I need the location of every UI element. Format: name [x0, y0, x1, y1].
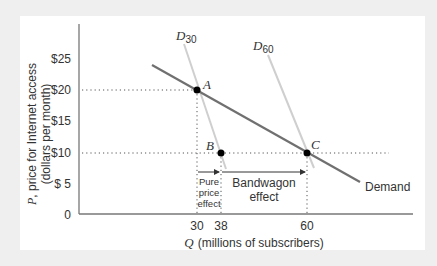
bandwagon-effect-label: Bandwagon effect: [232, 176, 295, 204]
demand-label: Demand: [365, 180, 410, 194]
x-axis-label: Q(millions of subscribers): [184, 235, 323, 250]
y-tick-20: $20: [51, 83, 71, 97]
d30-label: D30: [175, 28, 197, 45]
x-axis-label-text: (millions of subscribers): [198, 236, 324, 250]
svg-text:effect: effect: [197, 198, 220, 209]
y-axis-label-line2: (dollars per month): [39, 84, 53, 185]
svg-text:price: price: [199, 187, 220, 198]
demand-line: [152, 65, 360, 182]
point-a: [194, 87, 201, 94]
d60-label: D60: [252, 38, 274, 55]
svg-text:Bandwagon: Bandwagon: [232, 176, 295, 190]
y-tick-0: 0: [64, 208, 71, 222]
svg-text:Pure: Pure: [199, 176, 219, 187]
x-tick-38: 38: [214, 219, 228, 233]
y-tick-5: $ 5: [54, 177, 71, 191]
pure-price-effect-label: Pure price effect: [197, 176, 220, 209]
y-tick-25: $25: [51, 52, 71, 66]
point-c-label: C: [311, 137, 320, 152]
point-b-label: B: [206, 138, 214, 153]
y-tick-10: $10: [51, 146, 71, 160]
point-a-label: A: [202, 77, 211, 92]
x-tick-30: 30: [190, 219, 204, 233]
x-tick-60: 60: [300, 219, 314, 233]
x-axis-var: Q: [184, 235, 194, 250]
point-b: [218, 150, 225, 157]
demand-chart: $25 $20 $15 $10 $ 5 0 P, price for Inter…: [0, 0, 437, 266]
svg-text:effect: effect: [249, 190, 279, 204]
y-axis-label-line1: , price for Internet access: [25, 63, 39, 198]
svg-text:P, price for Internet access: P, price for Internet access: [25, 63, 39, 206]
y-tick-15: $15: [51, 114, 71, 128]
point-c: [304, 150, 311, 157]
y-axis-label: P, price for Internet access (dollars pe…: [25, 63, 53, 206]
